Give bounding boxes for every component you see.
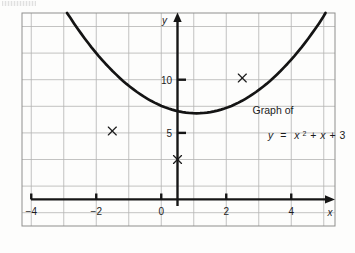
equation-plus-2: + [329,129,335,141]
equation-x-linear: x [319,129,326,141]
x-tick-label-2: 2 [223,206,229,217]
figure-container: −4 −2 0 2 4 10 5 y x Graph of y = x 2 + … [0,0,355,253]
y-tick-label-10: 10 [161,75,173,86]
equation-plus-1: + [310,129,316,141]
x-axis-label: x [327,207,334,218]
graph-svg: −4 −2 0 2 4 10 5 y x Graph of y = x 2 + … [0,0,355,253]
x-tick-label-0: 0 [158,206,164,217]
y-tick-label-5: 5 [166,128,172,139]
equation-exponent: 2 [302,130,306,137]
x-tick-label-4: 4 [288,206,294,217]
x-tick-label-neg2: −2 [91,206,103,217]
equation-equals: = [280,129,286,141]
equation-lhs: y [267,129,274,141]
y-axis-label: y [161,15,168,26]
equation-x-squared-base: x [293,129,300,141]
x-tick-label-neg4: −4 [26,206,38,217]
equation-constant: 3 [340,129,346,141]
caption-graph-of: Graph of [253,104,294,116]
